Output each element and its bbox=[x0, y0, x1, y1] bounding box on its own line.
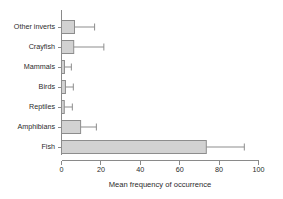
x-tick-label: 40 bbox=[136, 165, 144, 174]
x-axis-ticks bbox=[62, 161, 259, 165]
y-tick-label: Fish bbox=[41, 142, 55, 151]
chart-canvas: Other inverts Crayfish Mammals Birds Rep… bbox=[0, 0, 283, 199]
bars-group bbox=[62, 21, 245, 154]
y-tick-label: Crayfish bbox=[29, 42, 55, 51]
bar bbox=[62, 21, 75, 34]
x-tick-label: 20 bbox=[97, 165, 105, 174]
x-tick-label: 0 bbox=[60, 165, 64, 174]
bar bbox=[62, 141, 207, 154]
bar bbox=[62, 101, 65, 114]
bar bbox=[62, 61, 65, 74]
y-tick-label: Birds bbox=[39, 82, 56, 91]
bar-chart-figure: Other inverts Crayfish Mammals Birds Rep… bbox=[0, 0, 283, 199]
bar bbox=[62, 81, 66, 94]
x-axis-title: Mean frequency of occurrence bbox=[109, 180, 212, 189]
bar bbox=[62, 121, 81, 134]
x-tick-label: 60 bbox=[176, 165, 184, 174]
y-tick-label: Other inverts bbox=[14, 22, 56, 31]
y-tick-label: Mammals bbox=[24, 62, 56, 71]
y-tick-label: Amphibians bbox=[17, 122, 55, 131]
y-tick-label: Reptiles bbox=[29, 102, 55, 111]
bar bbox=[62, 41, 74, 54]
x-axis-tick-labels: 0 20 40 60 80 100 bbox=[60, 165, 265, 174]
y-axis-tick-labels: Other inverts Crayfish Mammals Birds Rep… bbox=[14, 22, 56, 151]
x-tick-label: 80 bbox=[215, 165, 223, 174]
x-tick-label: 100 bbox=[253, 165, 265, 174]
y-axis-ticks bbox=[58, 27, 62, 147]
